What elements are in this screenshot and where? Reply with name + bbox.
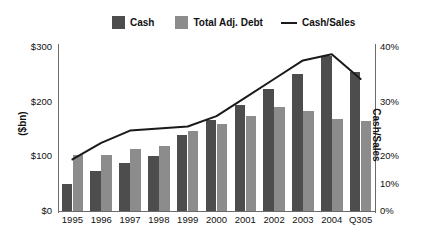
bar-cash-Q305 <box>350 72 361 211</box>
y-axis-right-tick-20: 20% <box>380 150 420 161</box>
x-axis-label-2000: 2000 <box>202 214 231 225</box>
bar-cash-2001 <box>235 105 246 211</box>
legend-item-total-adj-debt: Total Adj. Debt <box>175 16 262 29</box>
x-axis-label-1997: 1997 <box>116 214 145 225</box>
bar-group-1998 <box>148 46 170 211</box>
bar-group-1997 <box>119 46 141 211</box>
legend-swatch-cash <box>112 16 125 29</box>
bar-total-adj-debt-2001 <box>246 116 257 211</box>
bar-cash-1998 <box>148 156 159 211</box>
cash-and-debt-chart: Cash Total Adj. Debt Cash/Sales $300 $20… <box>0 0 433 245</box>
x-axis-label-2001: 2001 <box>231 214 260 225</box>
bar-total-adj-debt-2004 <box>332 119 343 211</box>
bar-cash-2000 <box>206 120 217 211</box>
bar-group-2000 <box>206 46 228 211</box>
bar-total-adj-debt-2002 <box>274 107 285 212</box>
legend-swatch-total-adj-debt <box>175 16 188 29</box>
x-axis-label-1998: 1998 <box>144 214 173 225</box>
bar-group-1999 <box>177 46 199 211</box>
x-axis-label-Q305: Q305 <box>346 214 375 225</box>
x-axis-labels: 1995199619971998199920002001200220032004… <box>58 214 375 232</box>
y-axis-left-tick-300: $300 <box>12 41 52 52</box>
bar-cash-1997 <box>119 163 130 211</box>
bar-total-adj-debt-2000 <box>217 124 228 211</box>
x-axis-label-2003: 2003 <box>289 214 318 225</box>
bars-layer <box>58 46 375 211</box>
bar-cash-2002 <box>263 89 274 211</box>
legend-label-cash: Cash <box>130 17 154 28</box>
legend-label-cash-sales: Cash/Sales <box>302 17 355 28</box>
y-axis-right-tick-40: 40% <box>380 41 420 52</box>
legend-line-icon <box>281 22 297 24</box>
bar-total-adj-debt-1997 <box>130 149 141 211</box>
chart-legend: Cash Total Adj. Debt Cash/Sales <box>112 16 355 29</box>
x-axis-label-1995: 1995 <box>58 214 87 225</box>
bar-group-Q305 <box>350 46 372 211</box>
bar-total-adj-debt-1996 <box>101 155 112 211</box>
bar-group-2001 <box>235 46 257 211</box>
y-axis-right-tick-0: 0% <box>380 205 420 216</box>
bar-group-2003 <box>292 46 314 211</box>
y-axis-left-title: ($bn) <box>17 94 28 154</box>
legend-label-total-adj-debt: Total Adj. Debt <box>193 17 262 28</box>
bar-total-adj-debt-1998 <box>159 146 170 211</box>
bar-group-1996 <box>90 46 112 211</box>
y-axis-right-tick-10: 10% <box>380 178 420 189</box>
bar-cash-2003 <box>292 74 303 212</box>
bar-cash-1999 <box>177 135 188 211</box>
x-axis-line <box>58 211 376 212</box>
y-axis-right-tick-30: 30% <box>380 96 420 107</box>
bar-cash-1996 <box>90 171 101 211</box>
legend-item-cash: Cash <box>112 16 154 29</box>
bar-total-adj-debt-Q305 <box>361 121 372 211</box>
bar-total-adj-debt-1995 <box>73 155 84 211</box>
bar-cash-1995 <box>62 184 73 212</box>
bar-cash-2004 <box>321 56 332 211</box>
bar-total-adj-debt-1999 <box>188 131 199 211</box>
bar-total-adj-debt-2003 <box>303 111 314 211</box>
bar-group-2004 <box>321 46 343 211</box>
bar-group-2002 <box>263 46 285 211</box>
x-axis-label-2002: 2002 <box>260 214 289 225</box>
legend-item-cash-sales: Cash/Sales <box>281 17 355 28</box>
bar-group-1995 <box>62 46 84 211</box>
x-axis-label-1996: 1996 <box>87 214 116 225</box>
y-axis-left-tick-0: $0 <box>12 205 52 216</box>
x-axis-label-2004: 2004 <box>317 214 346 225</box>
x-axis-label-1999: 1999 <box>173 214 202 225</box>
